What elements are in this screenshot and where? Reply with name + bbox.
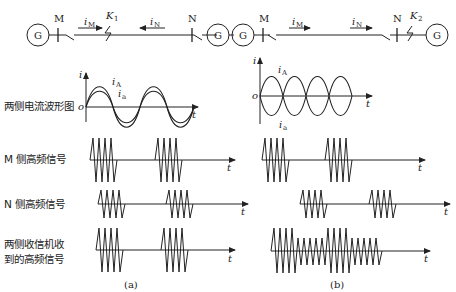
breaker-n (194, 35, 202, 40)
fault-k1-icon (105, 26, 111, 41)
svg-text:i: i (118, 88, 121, 99)
svg-text:A: A (281, 69, 288, 77)
breaker-m (66, 35, 74, 40)
fault-label: K (105, 10, 114, 21)
caption-b: (b) (330, 279, 344, 290)
current-n-sub: N (154, 21, 160, 29)
bus-n-label: N (188, 13, 197, 24)
generator-left-label: G (239, 30, 247, 41)
current-waveform-a (86, 73, 198, 127)
caption-a: (a) (124, 279, 138, 290)
m-signal-b (262, 138, 425, 182)
current-n-label: i (150, 16, 153, 27)
fault-label: K (409, 10, 418, 21)
svg-text:t: t (228, 253, 233, 264)
svg-text:a: a (283, 124, 287, 132)
svg-text:o: o (252, 90, 258, 101)
current-m-label: i (292, 16, 295, 27)
circuit-a-labels: G G M N i M i N K 1 (34, 10, 222, 41)
bus-n-label: N (393, 13, 402, 24)
svg-text:i: i (112, 76, 115, 87)
received-signal-a (96, 228, 235, 272)
svg-text:o: o (78, 101, 84, 112)
generator-right-label: G (214, 30, 222, 41)
generator-left-label: G (34, 30, 42, 41)
svg-text:t: t (444, 206, 449, 217)
m-signal-a (90, 138, 235, 182)
svg-text:i: i (278, 64, 281, 75)
svg-text:t: t (424, 253, 429, 264)
svg-text:i: i (79, 69, 82, 80)
svg-text:t: t (192, 109, 197, 120)
fault-sub: 2 (418, 15, 422, 23)
current-m-sub: M (88, 21, 95, 29)
generator-right-label: G (433, 30, 441, 41)
current-n-label: i (352, 16, 355, 27)
bus-m-label: M (259, 13, 269, 24)
received-signal-b (271, 228, 430, 273)
fault-k2-icon (407, 26, 413, 41)
circuit-a (27, 24, 234, 46)
svg-text:a: a (122, 93, 126, 101)
current-n-sub: N (356, 21, 362, 29)
breaker-m (268, 35, 276, 40)
current-m-sub: M (296, 21, 303, 29)
protection-diagram: G G M N i M i N K 1 G G M N i M i N K 2 … (0, 0, 456, 292)
svg-text:i: i (279, 119, 282, 130)
svg-text:t: t (418, 162, 423, 173)
svg-text:t: t (241, 206, 246, 217)
current-waveform-b (260, 58, 372, 124)
fault-sub: 1 (114, 15, 118, 23)
bus-m-label: M (54, 13, 64, 24)
n-signal-a (98, 190, 248, 218)
n-signal-b (300, 190, 450, 218)
svg-text:t: t (366, 98, 371, 109)
current-m-label: i (84, 16, 87, 27)
svg-text:t: t (227, 162, 232, 173)
breaker-n (382, 35, 390, 40)
circuit-b (232, 24, 448, 46)
svg-text:i: i (253, 55, 256, 66)
